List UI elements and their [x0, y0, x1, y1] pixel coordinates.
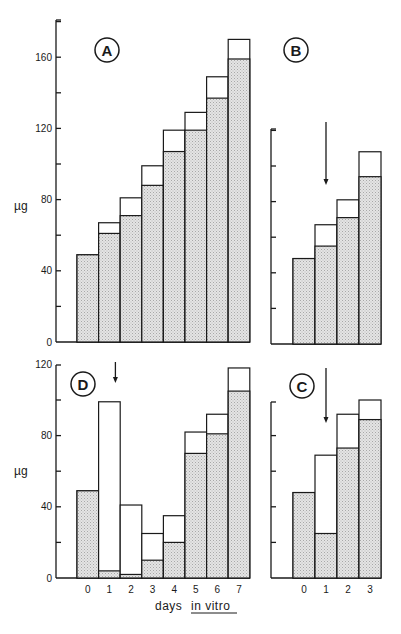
bar-day-3: [142, 166, 164, 342]
panel-label-b: B: [284, 38, 308, 62]
bar-shaded: [142, 185, 164, 342]
x-axis-title-italic: in vitro: [191, 599, 230, 613]
bar-day-2: [337, 200, 359, 344]
bar-day-2: [120, 505, 142, 578]
x-tick-label: 0: [301, 584, 307, 595]
bar-day-0: [77, 491, 99, 578]
bar-shaded: [337, 218, 359, 344]
x-tick-label: 6: [215, 584, 221, 595]
bar-day-3: [359, 400, 381, 578]
x-tick-label: 7: [236, 584, 242, 595]
bar-shaded: [293, 259, 315, 344]
bar-day-0: [293, 259, 315, 344]
svg-text:B: B: [291, 42, 302, 59]
bar-shaded: [77, 491, 99, 578]
bar-shaded: [337, 448, 359, 578]
bar-day-3: [142, 534, 164, 579]
bar-shaded: [359, 177, 381, 344]
y-tick-label: 120: [35, 359, 52, 370]
x-tick-label: 3: [150, 584, 156, 595]
panel-label-d: D: [71, 372, 95, 396]
y-axis-label: µg: [14, 464, 28, 478]
bar-day-1: [315, 225, 337, 344]
y-tick-label: 0: [46, 337, 52, 348]
bar-shaded: [77, 255, 99, 342]
bar-shaded: [185, 130, 207, 342]
bar-day-0: [293, 493, 315, 578]
bar-shaded: [99, 571, 121, 578]
bar-shaded: [315, 246, 337, 344]
x-tick-label: 5: [193, 584, 199, 595]
bar-total: [120, 505, 142, 578]
y-tick-label: 80: [41, 430, 53, 441]
y-axis-label: µg: [14, 199, 28, 213]
bar-day-3: [359, 152, 381, 344]
bar-shaded: [315, 534, 337, 579]
bar-shaded: [142, 560, 164, 578]
y-tick-label: 40: [41, 501, 53, 512]
y-tick-label: 80: [41, 194, 53, 205]
bar-shaded: [163, 152, 185, 342]
panel-a: 04080120160µgA: [14, 20, 250, 348]
bar-day-5: [185, 432, 207, 578]
svg-text:C: C: [297, 378, 308, 395]
bar-shaded: [228, 59, 250, 342]
bar-shaded: [359, 420, 381, 578]
bar-shaded: [120, 574, 142, 578]
arrow-icon: [324, 368, 329, 423]
x-tick-label: 1: [323, 584, 329, 595]
x-axis-title: days in vitro: [155, 599, 237, 613]
bar-day-6: [207, 77, 229, 342]
bar-day-2: [120, 198, 142, 342]
bar-day-5: [185, 112, 207, 342]
panel-c: 0123C: [271, 368, 381, 595]
x-tick-label: 2: [128, 584, 134, 595]
x-tick-label: 3: [367, 584, 373, 595]
x-tick-label: 1: [107, 584, 113, 595]
bar-day-1: [99, 402, 121, 578]
bar-day-1: [315, 455, 337, 578]
y-tick-label: 40: [41, 265, 53, 276]
y-tick-label: 160: [35, 52, 52, 63]
bar-day-4: [163, 130, 185, 342]
svg-text:A: A: [102, 42, 113, 59]
y-tick-label: 120: [35, 123, 52, 134]
arrow-icon: [324, 122, 329, 185]
arrow-icon: [113, 362, 118, 383]
bar-shaded: [228, 391, 250, 578]
bar-shaded: [207, 98, 229, 342]
bar-day-4: [163, 516, 185, 578]
panel-b: B: [271, 38, 381, 344]
x-tick-label: 2: [345, 584, 351, 595]
bar-total: [99, 402, 121, 578]
bar-day-7: [228, 368, 250, 578]
bar-day-1: [99, 223, 121, 342]
svg-text:D: D: [78, 376, 89, 393]
x-tick-label: 4: [171, 584, 177, 595]
bar-shaded: [207, 434, 229, 578]
bar-shaded: [293, 493, 315, 578]
panel-d: 04080120µg01234567D: [14, 359, 250, 595]
bar-shaded: [185, 453, 207, 578]
bar-day-0: [77, 255, 99, 342]
x-axis-title-prefix: days: [155, 599, 182, 613]
panel-label-a: A: [95, 38, 119, 62]
bar-day-7: [228, 39, 250, 342]
bar-shaded: [120, 216, 142, 342]
panel-label-c: C: [290, 374, 314, 398]
x-tick-label: 0: [85, 584, 91, 595]
y-tick-label: 0: [46, 573, 52, 584]
bar-shaded: [99, 233, 121, 342]
bar-day-2: [337, 414, 359, 578]
figure: 04080120160µgA B 04080120µg01234567D 012…: [0, 0, 401, 634]
bar-day-6: [207, 414, 229, 578]
bar-shaded: [163, 542, 185, 578]
